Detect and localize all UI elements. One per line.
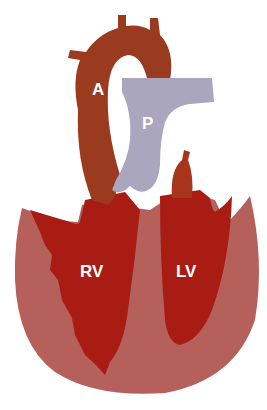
label-aorta: A — [92, 80, 104, 100]
label-pulmonary-artery: P — [142, 114, 153, 134]
caption-cropped — [0, 402, 267, 410]
label-left-ventricle: LV — [176, 262, 196, 282]
pulmonary-artery — [112, 78, 214, 192]
label-right-ventricle: RV — [80, 262, 103, 282]
vessel-stub — [172, 150, 193, 198]
heart-diagram — [0, 0, 267, 410]
